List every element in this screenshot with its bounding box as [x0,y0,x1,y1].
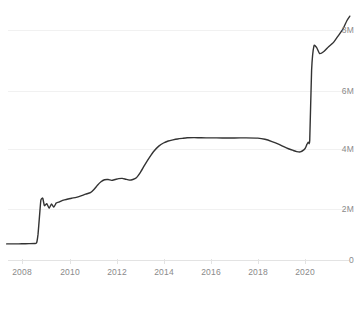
x-tick-label-2014: 2014 [154,268,174,277]
y-tick-label-6m: 6M [342,87,354,96]
x-tick-label-2012: 2012 [107,268,127,277]
x-tick-label-2018: 2018 [248,268,268,277]
series-line-value [7,16,350,244]
y-tick-label-0: 0 [349,256,354,265]
x-tick-label-2010: 2010 [60,268,80,277]
y-tick-label-8m: 8M [342,26,354,35]
series-svg [0,0,357,312]
y-tick-label-2m: 2M [342,205,354,214]
x-tick-label-2020: 2020 [295,268,315,277]
x-tick-label-2008: 2008 [12,268,32,277]
chart-container: 8M 6M 4M 2M 0 2008 2010 2012 2014 2016 2… [0,0,357,312]
plot-area: 8M 6M 4M 2M 0 2008 2010 2012 2014 2016 2… [0,0,357,312]
y-tick-label-4m: 4M [342,145,354,154]
x-tick-label-2016: 2016 [201,268,221,277]
